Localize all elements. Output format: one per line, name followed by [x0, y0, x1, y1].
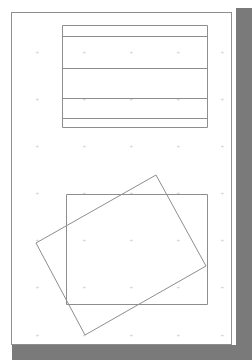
rotated-rectangle-outline	[36, 175, 206, 335]
drawing-canvas	[0, 0, 252, 360]
table-rectangle-outline	[63, 26, 208, 128]
table-rectangle[interactable]	[63, 26, 208, 128]
aligned-rectangle-outline	[67, 195, 208, 305]
rotated-rectangle[interactable]	[36, 175, 206, 335]
document-viewer	[0, 0, 252, 360]
aligned-rectangle[interactable]	[67, 195, 208, 305]
